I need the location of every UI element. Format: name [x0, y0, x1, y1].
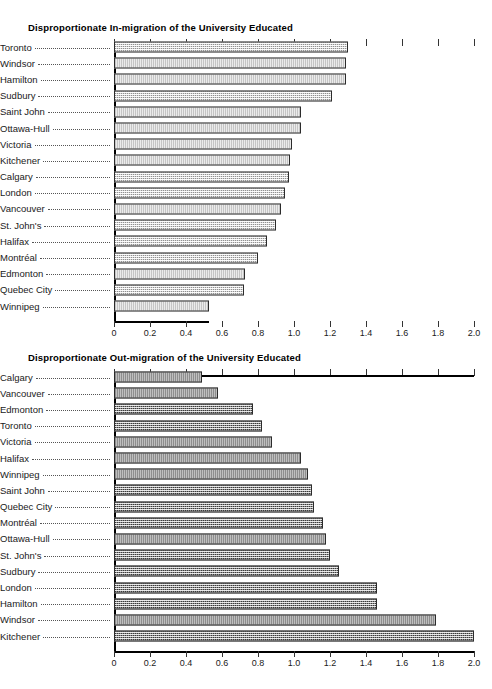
bar-row: Quebec City — [0, 282, 492, 298]
leader-dots — [55, 290, 110, 291]
bar — [114, 301, 209, 312]
category-label: Windsor — [0, 614, 114, 625]
bar-track — [114, 466, 492, 482]
category-label-text: London — [0, 582, 32, 593]
category-label: Sudbury — [0, 566, 114, 577]
category-label-text: Kitchener — [0, 155, 40, 166]
bar-row: Edmonton — [0, 401, 492, 417]
bar-row: Saint John — [0, 104, 492, 120]
category-label: Toronto — [0, 420, 114, 431]
x-tick — [294, 321, 295, 327]
category-label: Toronto — [0, 42, 114, 53]
bar — [114, 236, 267, 247]
category-label-text: Toronto — [0, 42, 32, 53]
x-tick-label: 1.6 — [396, 328, 409, 338]
category-label-text: Halifax — [0, 453, 29, 464]
leader-dots — [40, 258, 110, 259]
plot-area-out-migration: CalgaryVancouverEdmontonTorontoVictoriaH… — [0, 369, 492, 644]
bar — [114, 90, 332, 101]
category-label-text: Calgary — [0, 372, 33, 383]
x-tick-label: 0.2 — [144, 658, 157, 668]
category-label-text: Quebec City — [0, 284, 52, 295]
bar-track — [114, 369, 492, 385]
category-label-text: Winnipeg — [0, 301, 40, 312]
leader-dots — [44, 556, 110, 557]
bar — [114, 74, 346, 85]
x-tick — [186, 321, 187, 327]
bar-row: Ottawa-Hull — [0, 531, 492, 547]
bar — [114, 58, 346, 69]
x-tick — [438, 321, 439, 327]
category-label: Saint John — [0, 485, 114, 496]
category-label-text: Kitchener — [0, 631, 40, 642]
x-tick-label: 0.8 — [252, 658, 265, 668]
category-label-text: Hamilton — [0, 598, 38, 609]
bar-row: Toronto — [0, 418, 492, 434]
leader-dots — [36, 177, 110, 178]
bar — [114, 284, 244, 295]
leader-dots — [32, 242, 110, 243]
leader-dots — [32, 459, 110, 460]
bar-track — [114, 39, 492, 55]
category-label-text: Ottawa-Hull — [0, 533, 50, 544]
category-label: Calgary — [0, 171, 114, 182]
category-label-text: Montréal — [0, 517, 37, 528]
bar-track — [114, 152, 492, 168]
category-label: Winnipeg — [0, 469, 114, 480]
leader-dots — [38, 96, 110, 97]
x-tick — [402, 321, 403, 327]
bar-row: Edmonton — [0, 266, 492, 282]
bar — [114, 203, 281, 214]
category-label-text: Quebec City — [0, 501, 52, 512]
leader-dots — [35, 145, 110, 146]
category-label: Ottawa-Hull — [0, 123, 114, 134]
leader-dots — [38, 64, 110, 65]
bar-track — [114, 217, 492, 233]
leader-dots — [53, 539, 110, 540]
bar — [114, 187, 285, 198]
bar-track — [114, 401, 492, 417]
bar — [114, 420, 262, 431]
chart-page: Disproportionate In-migration of the Uni… — [0, 0, 492, 689]
chart-panel-out-migration: Disproportionate Out-migration of the Un… — [0, 352, 492, 689]
chart-title-in-migration: Disproportionate In-migration of the Uni… — [28, 22, 492, 33]
bar-track — [114, 120, 492, 136]
category-label: Montréal — [0, 517, 114, 528]
x-tick-label: 1.2 — [324, 658, 337, 668]
bar-track — [114, 266, 492, 282]
bar-track — [114, 531, 492, 547]
category-label: Windsor — [0, 58, 114, 69]
bar-track — [114, 547, 492, 563]
category-label-text: Halifax — [0, 236, 29, 247]
leader-dots — [53, 129, 110, 130]
bar-row: Kitchener — [0, 628, 492, 644]
leader-dots — [41, 604, 111, 605]
bar-track — [114, 169, 492, 185]
bar — [114, 268, 245, 279]
bar — [114, 533, 326, 544]
x-tick-label: 1.8 — [432, 328, 445, 338]
category-label-text: Vancouver — [0, 388, 45, 399]
category-label: London — [0, 187, 114, 198]
bar-row: Victoria — [0, 136, 492, 152]
category-label: Ottawa-Hull — [0, 533, 114, 544]
bar-row: Quebec City — [0, 499, 492, 515]
bar-track — [114, 482, 492, 498]
plot-area-in-migration: TorontoWindsorHamiltonSudburySaint JohnO… — [0, 39, 492, 314]
category-label: Victoria — [0, 436, 114, 447]
category-label: Victoria — [0, 139, 114, 150]
x-tick — [294, 651, 295, 657]
bar — [114, 252, 258, 263]
category-label: Edmonton — [0, 268, 114, 279]
leader-dots — [36, 378, 110, 379]
bar-row: Halifax — [0, 233, 492, 249]
bar-row: Vancouver — [0, 201, 492, 217]
leader-dots — [38, 620, 110, 621]
chart-title-out-migration: Disproportionate Out-migration of the Un… — [28, 352, 492, 363]
bar — [114, 372, 202, 383]
category-label: Hamilton — [0, 598, 114, 609]
category-label-text: Toronto — [0, 420, 32, 431]
leader-dots — [43, 475, 110, 476]
bar-track — [114, 201, 492, 217]
bar-track — [114, 579, 492, 595]
